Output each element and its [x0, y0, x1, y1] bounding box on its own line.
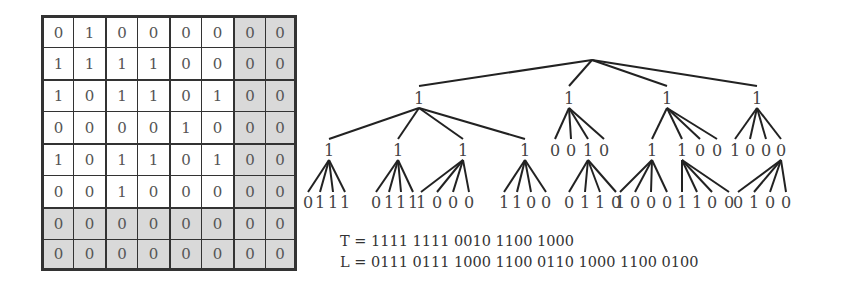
tree-leaf: 0	[630, 193, 640, 212]
tree-leaf: 0	[733, 193, 743, 212]
tree-leaf: 0	[371, 193, 381, 212]
tree-leaf: 0	[432, 193, 442, 212]
tree-edge	[419, 108, 463, 139]
tree-edge	[329, 108, 419, 139]
tree-node-level2: 0	[599, 141, 609, 160]
tree-node-level2: 1	[520, 141, 530, 160]
tree-node-level2: 1	[730, 141, 740, 160]
tree-node-level2: 0	[745, 141, 755, 160]
tree-node-level2: 0	[761, 141, 771, 160]
tree-node-level2: 1	[677, 141, 687, 160]
tree-edge	[588, 160, 600, 192]
tree-leaf: 1	[512, 193, 522, 212]
tree-leaf: 1	[340, 193, 350, 212]
tree-leaf: 1	[396, 193, 406, 212]
tree-edge	[588, 160, 616, 192]
tree-leaf: 1	[692, 193, 702, 212]
tree-edge	[569, 108, 604, 139]
tree-leaf: 1	[580, 193, 590, 212]
t-bitmap-equation: T = 1111 1111 0010 1100 1000	[340, 233, 574, 249]
tree-leaf: 1	[499, 193, 509, 212]
tree-leaf: 0	[662, 193, 672, 212]
tree-node-level2: 0	[695, 141, 705, 160]
tree-node-level2: 0	[712, 141, 722, 160]
tree-leaf: 0	[448, 193, 458, 212]
tree-node-level2: 1	[583, 141, 593, 160]
tree-edge	[308, 160, 329, 192]
tree-leaf: 1	[416, 193, 426, 212]
tree-edge	[781, 160, 786, 192]
tree-edge	[652, 160, 667, 192]
tree-edge	[592, 60, 757, 86]
tree-node-level2: 1	[393, 141, 403, 160]
tree-edge	[592, 60, 667, 86]
tree-leaf: 0	[564, 193, 574, 212]
tree-leaf: 0	[526, 193, 536, 212]
tree-leaf: 1	[328, 193, 338, 212]
tree-edge	[667, 108, 700, 139]
tree-leaf: 0	[646, 193, 656, 212]
tree-node-level2: 1	[324, 141, 334, 160]
tree-node-level2: 0	[776, 141, 786, 160]
tree-edge	[620, 160, 652, 192]
tree-node-level2: 1	[647, 141, 657, 160]
tree-edge	[376, 160, 398, 192]
tree-leaf: 1	[677, 193, 687, 212]
tree-leaf: 0	[765, 193, 775, 212]
tree-leaf: 0	[303, 193, 313, 212]
tree-node-level1: 1	[564, 89, 574, 108]
tree-edge	[555, 108, 569, 139]
tree-node-level1: 1	[414, 89, 424, 108]
tree-leaf: 1	[384, 193, 394, 212]
tree-edge	[320, 160, 329, 192]
tree-leaf: 1	[615, 193, 625, 212]
tree-edge	[419, 60, 592, 86]
tree-leaf: 0	[541, 193, 551, 212]
l-bitmap-equation: L = 0111 0111 1000 1100 0110 1000 1100 0…	[340, 254, 698, 270]
tree-leaf: 1	[595, 193, 605, 212]
tree-node-level2: 0	[550, 141, 560, 160]
tree-leaf: 1	[749, 193, 759, 212]
tree-node-level1: 1	[752, 89, 762, 108]
tree-leaf: 0	[781, 193, 791, 212]
tree-node-level1: 1	[662, 89, 672, 108]
tree-edge	[682, 160, 712, 192]
tree-leaf: 0	[707, 193, 717, 212]
tree-edge	[652, 108, 667, 139]
tree-edge	[463, 160, 469, 192]
tree-leaf: 0	[464, 193, 474, 212]
tree-edge	[651, 160, 652, 192]
tree-node-level2: 1	[458, 141, 468, 160]
tree-edge	[419, 108, 525, 139]
tree-leaf: 1	[315, 193, 325, 212]
tree-edge	[635, 160, 652, 192]
tree-node-level2: 0	[566, 141, 576, 160]
